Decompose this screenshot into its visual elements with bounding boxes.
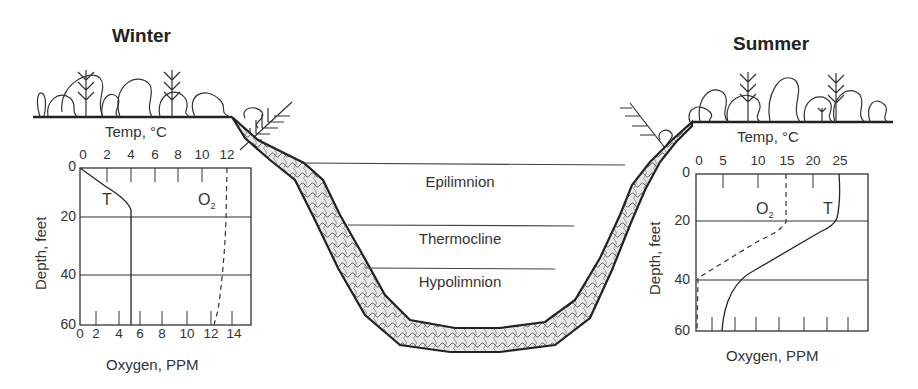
summer-depth-axis-title: Depth, feet [646,222,663,295]
summer-temp-tick: 20 [805,153,820,168]
epilimnion-top-line [304,163,625,165]
summer-oxygen-axis-title: Oxygen, PPM [726,347,819,364]
winter-oxygen-tick: 0 [76,326,84,341]
summer-depth-tick: 40 [664,271,690,287]
winter-temp-series-label: T [102,191,112,209]
winter-depth-tick: 20 [50,208,76,224]
winter-depth-axis-title: Depth, feet [32,217,49,290]
winter-oxygen-tick: 10 [179,326,194,341]
winter-temp-axis-title: Temp, °C [105,123,167,140]
winter-temp-tick: 4 [127,147,135,162]
summer-temp-tick: 0 [695,153,703,168]
summer-temp-tick: 25 [832,153,847,168]
winter-depth-tick: 0 [50,158,76,174]
winter-oxygen-tick: 12 [203,326,218,341]
winter-oxygen-tick: 14 [226,326,241,341]
winter-oxygen-axis-title: Oxygen, PPM [106,356,199,373]
summer-temp-axis-title: Temp, °C [737,128,799,145]
summer-depth-tick: 20 [664,212,690,228]
summer-depth-tick: 60 [664,322,690,338]
winter-temp-tick: 12 [219,147,234,162]
summer-temp-tick: 15 [779,153,794,168]
thermocline-label: Thermocline [419,230,502,247]
summer-oxygen-series-label: O2 [756,200,773,220]
winter-oxygen-series-label: O2 [198,191,215,211]
summer-depth-tick: 0 [664,164,690,180]
hypolimnion-label: Hypolimnion [419,273,502,290]
winter-temp-tick: 8 [174,147,182,162]
summer-title: Summer [733,33,809,55]
winter-oxygen-tick: 2 [92,326,100,341]
summer-temp-series-label: T [823,200,833,218]
winter-temp-tick: 6 [151,147,159,162]
winter-oxygen-tick: 4 [115,326,123,341]
winter-temp-tick: 2 [103,147,111,162]
hypolimnion-top-line [365,268,555,269]
winter-oxygen-tick: 8 [158,326,166,341]
winter-depth-tick: 40 [50,266,76,282]
thermocline-top-line [348,225,574,226]
winter-temp-tick: 0 [79,147,87,162]
epilimnion-label: Epilimnion [425,173,494,190]
winter-temp-tick: 10 [194,147,209,162]
summer-temp-tick: 5 [719,153,727,168]
winter-title: Winter [112,25,171,47]
summer-chart [696,174,868,331]
winter-depth-tick: 60 [50,316,76,332]
summer-temp-tick: 10 [750,153,765,168]
winter-oxygen-tick: 6 [136,326,144,341]
